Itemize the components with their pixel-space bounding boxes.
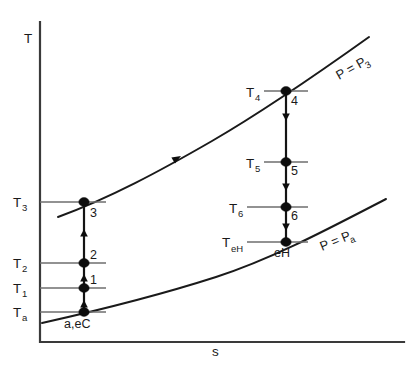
temp-label-sub: 5 bbox=[255, 163, 260, 174]
state-point-2[interactable] bbox=[79, 259, 89, 268]
temp-label-sub: eH bbox=[231, 243, 243, 254]
state-label-eh: eH bbox=[274, 246, 290, 260]
axis-labels-group: T s bbox=[24, 31, 219, 359]
state-label-6: 6 bbox=[291, 209, 298, 223]
ts-diagram: T s T 4 T 5 T 6 T eH T 3 bbox=[0, 0, 408, 376]
temp-label-sub: 1 bbox=[22, 288, 27, 299]
temp-label-base: T bbox=[13, 281, 21, 296]
state-point-5[interactable] bbox=[281, 158, 291, 167]
temp-label-sub: a bbox=[22, 312, 28, 323]
x-axis-label: s bbox=[212, 344, 219, 359]
temp-label-base: T bbox=[13, 195, 21, 210]
temp-label-sub: 6 bbox=[238, 208, 243, 219]
state-label-2: 2 bbox=[90, 248, 97, 262]
state-point-labels-group: 4 5 6 eH 3 2 1 a,eC bbox=[64, 94, 298, 331]
state-label-3: 3 bbox=[90, 206, 97, 220]
temp-label-base: T bbox=[246, 156, 254, 171]
isobar-p3-curve bbox=[58, 37, 369, 217]
state-point-6[interactable] bbox=[281, 203, 291, 212]
temperature-label-T1: T 1 bbox=[13, 281, 27, 299]
temp-label-sub: 4 bbox=[255, 92, 260, 103]
temp-label-sub: 2 bbox=[22, 263, 27, 274]
state-point-3[interactable] bbox=[79, 198, 89, 207]
state-point-1[interactable] bbox=[79, 284, 89, 293]
temp-label-base: T bbox=[222, 235, 230, 250]
state-point-4[interactable] bbox=[281, 87, 291, 96]
temperature-label-Ta: T a bbox=[13, 305, 28, 323]
pressure-labels-group: P = P 3 P = P a bbox=[318, 52, 373, 256]
state-point-a-ec[interactable] bbox=[79, 308, 89, 317]
temperature-label-T6: T 6 bbox=[229, 201, 243, 219]
state-label-a-ec: a,eC bbox=[64, 317, 90, 331]
process-paths-group bbox=[80, 90, 290, 313]
temp-label-base: T bbox=[229, 201, 237, 216]
temp-label-base: T bbox=[246, 85, 254, 100]
ts-diagram-canvas: T s T 4 T 5 T 6 T eH T 3 bbox=[0, 0, 408, 376]
temp-label-base: T bbox=[13, 256, 21, 271]
temperature-label-TeH: T eH bbox=[222, 235, 243, 254]
temperature-label-T2: T 2 bbox=[13, 256, 27, 274]
temperature-label-T4: T 4 bbox=[246, 85, 260, 103]
state-point-markers bbox=[79, 87, 291, 317]
state-label-5: 5 bbox=[291, 164, 298, 178]
temp-label-base: T bbox=[13, 305, 21, 320]
y-axis-label: T bbox=[24, 31, 32, 46]
state-label-1: 1 bbox=[90, 273, 97, 287]
pressure-label-sub: a bbox=[348, 233, 358, 245]
temperature-labels-group: T 4 T 5 T 6 T eH T 3 T 2 bbox=[13, 85, 260, 323]
temperature-label-T3: T 3 bbox=[13, 195, 27, 213]
temp-label-sub: 3 bbox=[22, 202, 27, 213]
temperature-label-T5: T 5 bbox=[246, 156, 260, 174]
state-label-4: 4 bbox=[291, 94, 298, 108]
